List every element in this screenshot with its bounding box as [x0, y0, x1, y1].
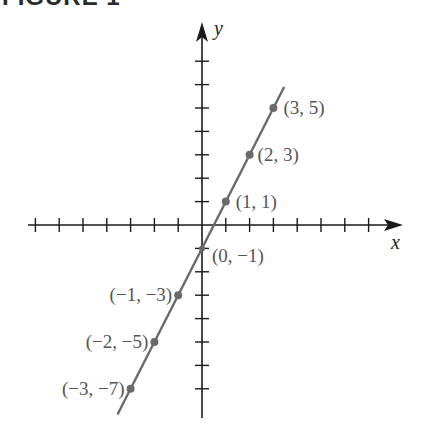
data-point — [199, 245, 205, 251]
data-point — [174, 291, 182, 299]
x-axis-label: x — [390, 231, 400, 253]
point-label: (0, −1) — [212, 245, 264, 267]
data-point — [127, 385, 135, 393]
y-axis-label: y — [212, 17, 223, 40]
data-point — [222, 198, 230, 206]
point-label: (3, 5) — [283, 97, 324, 119]
point-label: (−1, −3) — [110, 284, 173, 306]
point-label: (1, 1) — [236, 191, 277, 213]
point-label: (2, 3) — [258, 144, 299, 166]
point-label: (−2, −5) — [86, 331, 149, 353]
data-point — [150, 338, 158, 346]
coordinate-plot: (3, 5)(2, 3)(1, 1)(0, −1)(−1, −3)(−2, −5… — [0, 0, 422, 431]
data-point — [269, 104, 277, 112]
point-label: (−3, −7) — [62, 378, 125, 400]
data-point — [246, 151, 254, 159]
point-labels: (3, 5)(2, 3)(1, 1)(0, −1)(−1, −3)(−2, −5… — [62, 97, 325, 400]
